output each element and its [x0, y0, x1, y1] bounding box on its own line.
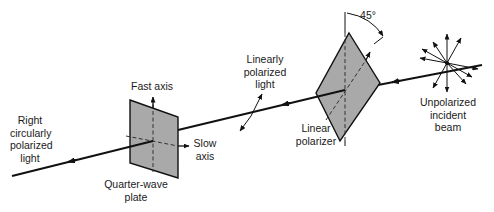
label-line: incident [415, 109, 481, 122]
unpolarized-star-icon [420, 34, 478, 92]
label-line: Quarter-wave [96, 178, 176, 191]
label-line: axis [190, 150, 220, 163]
label-line: circularly [10, 127, 50, 140]
label-line: Linearly [238, 53, 292, 66]
quarter-wave-plate [126, 97, 189, 178]
fast-axis-label: Fast axis [122, 80, 182, 93]
linearly-polarized-label: Linearly polarized light [238, 53, 292, 91]
quarter-wave-plate-label: Quarter-wave plate [96, 178, 176, 203]
incident-beam-line [378, 65, 482, 85]
label-line: light [238, 78, 292, 91]
diagram-canvas: Right circularly polarized light Fast ax… [0, 0, 494, 212]
label-line: Slow [190, 137, 220, 150]
label-line: light [10, 152, 50, 165]
label-line: Unpolarized [415, 96, 481, 109]
output-light-label: Right circularly polarized light [10, 114, 50, 164]
label-line: polarized [238, 66, 292, 79]
label-line: plate [96, 191, 176, 204]
label-line: beam [415, 121, 481, 134]
angle-label: 45° [356, 9, 380, 22]
label-line: Right [10, 114, 50, 127]
incident-beam-label: Unpolarized incident beam [415, 96, 481, 134]
label-line: polarizer [288, 135, 344, 148]
slow-axis-label: Slow axis [190, 137, 220, 162]
label-line: polarized [10, 139, 50, 152]
linear-polarizer-label: Linear polarizer [288, 122, 344, 147]
label-line: Linear [288, 122, 344, 135]
